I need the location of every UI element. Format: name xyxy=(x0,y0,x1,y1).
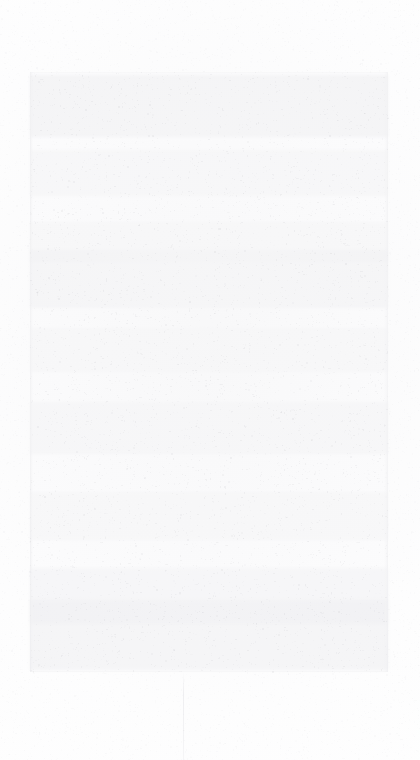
text-band xyxy=(30,150,388,196)
text-band xyxy=(30,600,388,670)
text-band xyxy=(30,75,388,137)
text-band xyxy=(30,492,388,540)
document-content-panel xyxy=(30,72,388,672)
text-band xyxy=(30,402,388,454)
text-band xyxy=(30,328,388,372)
fold-seam xyxy=(183,672,184,760)
scanned-page-surface xyxy=(0,0,420,760)
text-band xyxy=(30,250,388,308)
